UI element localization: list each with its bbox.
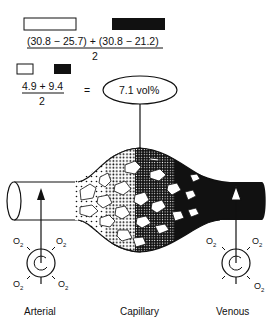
- venous-label: Venous: [216, 306, 249, 317]
- arterial-legend-box: [24, 18, 76, 30]
- o2-label: O2: [56, 236, 66, 248]
- result-value: 7.1 vol%: [119, 84, 159, 96]
- o2-label: O2: [254, 281, 264, 293]
- venous-rbc-icon: [222, 247, 250, 279]
- equals-sign: =: [84, 84, 90, 96]
- equation1-denominator: 2: [92, 50, 98, 62]
- venous-legend-box-small: [54, 64, 71, 74]
- vessel-diagram: [0, 0, 279, 329]
- capillary-label: Capillary: [120, 306, 159, 317]
- o2-label: O2: [58, 279, 68, 291]
- o2-label: O2: [13, 236, 23, 248]
- venous-legend-box: [112, 18, 165, 30]
- equation2-numerator: 4.9 + 9.4: [22, 80, 63, 92]
- o2-label: O2: [206, 236, 216, 248]
- equation2-denominator: 2: [39, 95, 45, 107]
- arterial-label: Arterial: [24, 306, 56, 317]
- o2-label: O2: [13, 279, 23, 291]
- o2-label: O2: [252, 236, 262, 248]
- equation1-numerator: (30.8 − 25.7) + (30.8 − 21.2): [27, 35, 159, 47]
- arterial-legend-box-small: [17, 64, 33, 74]
- arterial-rbc-icon: [27, 247, 55, 279]
